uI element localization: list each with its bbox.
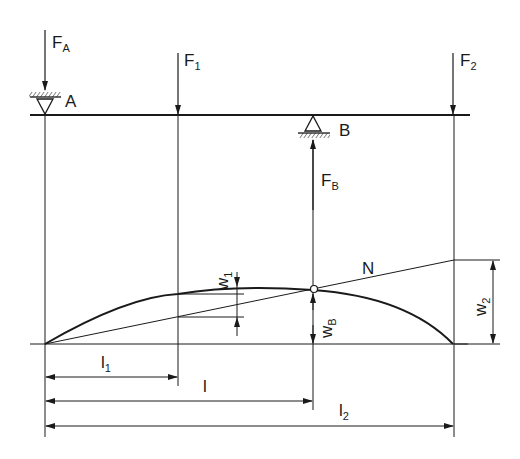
- l-label: l: [203, 377, 207, 396]
- support-a-label: A: [65, 92, 77, 111]
- force-f1-label: F1: [184, 51, 201, 72]
- w1-dimension: [178, 272, 244, 336]
- line-n-label: N: [362, 259, 374, 278]
- beam-deflection-diagram: A B FA F1 F2 FB N w1 wB: [0, 0, 520, 459]
- l2-label: l2: [339, 401, 349, 422]
- wb-label: wB: [317, 318, 338, 339]
- force-fa-label: FA: [52, 33, 70, 54]
- force-fb-label: FB: [321, 171, 339, 192]
- support-b-label: B: [339, 121, 350, 140]
- w1-label: w1: [213, 272, 234, 291]
- deflection-curve: [45, 288, 453, 344]
- w2-dimension: [454, 260, 500, 344]
- support-b-icon: [298, 116, 330, 138]
- node-b-icon: [311, 286, 318, 293]
- l1-label: l1: [101, 353, 111, 374]
- length-dimensions: [46, 377, 453, 426]
- w2-label: w2: [471, 298, 492, 317]
- line-n: [45, 260, 454, 344]
- diagram-canvas: A B FA F1 F2 FB N w1 wB: [0, 0, 520, 459]
- support-a-icon: [29, 92, 61, 114]
- force-f2-label: F2: [460, 51, 477, 72]
- reference-verticals: [45, 115, 454, 437]
